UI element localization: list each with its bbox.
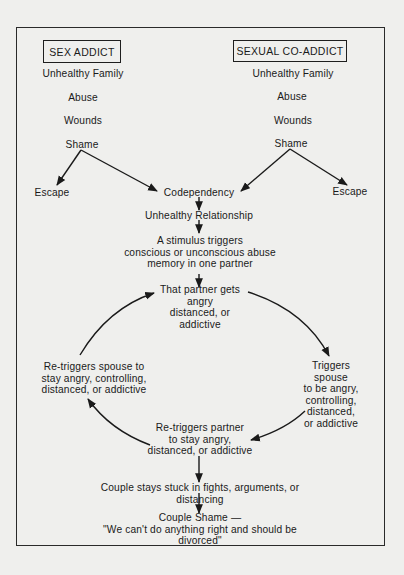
left-escape: Escape [35,187,70,199]
right-escape: Escape [333,186,368,198]
codependency-node: Codependency [164,187,234,199]
stimulus-node: A stimulus triggers conscious or unconsc… [124,235,276,270]
sex-addict-header: SEX ADDICT [43,40,121,63]
couple-shame-node: Couple Shame — "We can't do anything rig… [98,512,302,547]
cycle-retriggers-spouse-node: Re-triggers spouse to stay angry, contro… [42,361,147,396]
cycle-triggers-spouse-node: Triggers spouse to be angry, controlling… [295,360,368,429]
cycle-retriggers-partner-node: Re-triggers partner to stay angry, dista… [148,422,253,457]
right-step-wounds: Wounds [274,115,312,127]
left-step-shame: Shame [65,139,98,151]
unhealthy-relationship-node: Unhealthy Relationship [145,210,253,222]
left-step-wounds: Wounds [64,115,102,127]
cycle-partner-gets-node: That partner gets angry distanced, or ad… [160,284,240,330]
right-step-abuse: Abuse [277,91,307,103]
right-step-unhealthy-family: Unhealthy Family [252,68,333,80]
left-step-unhealthy-family: Unhealthy Family [42,68,123,80]
right-step-shame: Shame [274,138,307,150]
couple-stuck-node: Couple stays stuck in fights, arguments,… [98,482,302,505]
sexual-co-addict-header: SEXUAL CO-ADDICT [233,40,347,62]
left-step-abuse: Abuse [68,92,98,104]
